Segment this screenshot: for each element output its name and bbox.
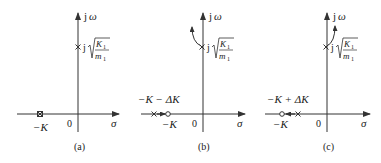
origin-label: 0 <box>67 118 72 129</box>
svg-text:1: 1 <box>227 44 230 50</box>
svg-text:m: m <box>343 51 350 61</box>
svg-text:m: m <box>219 51 226 61</box>
zero-label: −K <box>162 118 177 130</box>
root-locus-diagram: jω j K 1 m 1 −K 0 σ (a) jω <box>0 0 381 163</box>
imag-axis-label: jω <box>208 10 222 22</box>
panel-b: jω j K 1 m 1 −K − ΔK −K 0 σ (b) <box>138 10 245 153</box>
svg-text:1: 1 <box>103 44 106 50</box>
real-axis-label: σ <box>237 117 243 129</box>
real-axis-label: σ <box>361 117 367 129</box>
marker-label: −K <box>33 121 48 133</box>
panel-caption: (c) <box>323 141 334 153</box>
origin-label: 0 <box>192 118 197 129</box>
imag-axis-label: jω <box>332 10 346 22</box>
panel-a: jω j K 1 m 1 −K 0 σ (a) <box>17 10 119 153</box>
real-axis-label: σ <box>111 117 117 129</box>
svg-text:m: m <box>95 51 102 61</box>
zero-icon <box>280 112 285 117</box>
pole-label: j K 1 m 1 <box>206 38 234 62</box>
imag-axis-label: jω <box>83 10 97 22</box>
origin-label: 0 <box>316 118 321 129</box>
svg-text:j: j <box>330 42 334 53</box>
svg-text:K: K <box>343 39 351 49</box>
svg-text:1: 1 <box>351 44 354 50</box>
panel-c: jω j K 1 m 1 −K + ΔK −K 0 σ (c) <box>265 10 370 153</box>
pole-label: j K 1 m 1 <box>330 38 358 62</box>
svg-text:j: j <box>206 42 210 53</box>
svg-text:j: j <box>82 42 86 53</box>
svg-text:1: 1 <box>227 56 230 62</box>
svg-text:K: K <box>95 39 103 49</box>
panel-caption: (b) <box>198 141 210 153</box>
svg-text:K: K <box>219 39 227 49</box>
pole-label: j K 1 m 1 <box>82 38 110 62</box>
svg-text:1: 1 <box>103 56 106 62</box>
svg-text:1: 1 <box>351 56 354 62</box>
shift-label: −K + ΔK <box>267 93 309 105</box>
shift-label: −K − ΔK <box>138 93 180 105</box>
zero-icon <box>166 112 171 117</box>
locus-arrow-left <box>192 27 201 46</box>
zero-label: −K <box>273 118 288 130</box>
panel-caption: (a) <box>74 141 85 153</box>
